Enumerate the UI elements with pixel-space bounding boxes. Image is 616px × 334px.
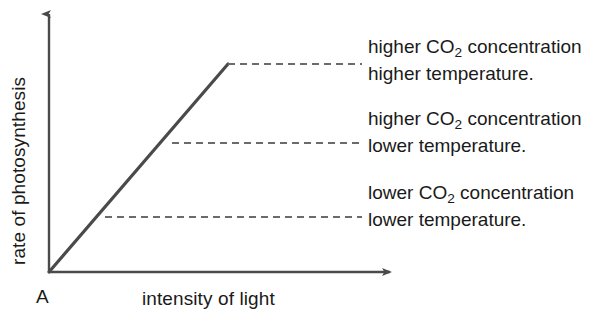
- annotation-line-1: lower CO2 concentration: [368, 180, 574, 207]
- annotation-line-1: higher CO2 concentration: [368, 34, 582, 61]
- y-axis-label: rate of photosynthesis: [8, 25, 34, 265]
- annotation-lower-co2-lower-temp: lower CO2 concentration lower temperatur…: [368, 180, 574, 232]
- annotation-higher-co2-higher-temp: higher CO2 concentration higher temperat…: [368, 34, 582, 86]
- annotation-line-1: higher CO2 concentration: [368, 106, 582, 133]
- annotation-line-2: higher temperature.: [368, 61, 582, 86]
- subscript-2: 2: [455, 117, 463, 132]
- x-axis-label: intensity of light: [142, 288, 275, 310]
- origin-point-label: A: [36, 286, 49, 308]
- subscript-2: 2: [447, 191, 455, 206]
- subscript-2: 2: [455, 45, 463, 60]
- annotation-line-2: lower temperature.: [368, 133, 582, 158]
- rising-line: [49, 64, 228, 272]
- annotation-line-2: lower temperature.: [368, 207, 574, 232]
- photosynthesis-light-intensity-chart: rate of photosynthesis intensity of ligh…: [0, 0, 616, 334]
- annotation-higher-co2-lower-temp: higher CO2 concentration lower temperatu…: [368, 106, 582, 158]
